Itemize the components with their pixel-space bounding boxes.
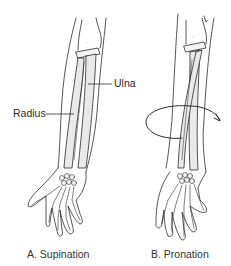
- svg-text:::: ::: [86, 40, 88, 45]
- svg-text:::: ::: [192, 34, 194, 39]
- caption-supination: A. Supination: [27, 248, 89, 260]
- caption-pronation: B. Pronation: [151, 248, 209, 260]
- arm-outline-left: [166, 14, 178, 168]
- pronation-arm: ::: [146, 14, 220, 240]
- supination-arm: ::: [28, 18, 106, 236]
- radius-label: Radius: [13, 107, 46, 119]
- forearm-diagram: ::: [0, 0, 231, 266]
- arm-outline-right: [203, 18, 214, 172]
- ulna-label: Ulna: [114, 77, 136, 89]
- hand-outline: [28, 168, 86, 236]
